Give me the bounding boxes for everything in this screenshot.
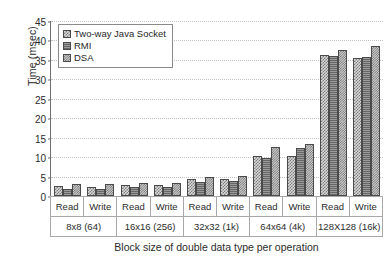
bar — [296, 148, 305, 196]
legend-label-1: RMI — [74, 40, 91, 52]
bar — [353, 58, 362, 196]
bar — [229, 181, 238, 196]
y-tick-label-25: 25 — [35, 94, 46, 105]
operation-label: Read — [51, 197, 84, 217]
bar — [362, 57, 371, 196]
operation-label: Read — [117, 197, 150, 217]
bar — [305, 144, 314, 196]
bar — [238, 176, 247, 196]
operation-label: Read — [250, 197, 283, 217]
bar — [187, 179, 196, 196]
group-label-row: 8x8 (64)16x16 (256)32x32 (1k)64x64 (4k)1… — [51, 217, 383, 237]
x-axis-title: Block size of double data type per opera… — [50, 241, 383, 253]
bar — [87, 187, 96, 196]
operation-label: Write — [216, 197, 249, 217]
group-label: 8x8 (64) — [51, 217, 117, 237]
bar — [130, 187, 139, 196]
operation-label: Read — [183, 197, 216, 217]
bar — [338, 50, 347, 196]
y-tick-label-15: 15 — [35, 133, 46, 144]
operation-label-row: ReadWriteReadWriteReadWriteReadWriteRead… — [51, 197, 383, 217]
legend: Two-way Java Socket RMI DSA — [58, 24, 173, 68]
y-tick-label-5: 5 — [40, 172, 46, 183]
operation-label: Write — [84, 197, 117, 217]
bar-group — [184, 21, 217, 196]
bar — [287, 156, 296, 196]
y-tick-label-10: 10 — [35, 153, 46, 164]
y-tick-label-0: 0 — [40, 192, 46, 203]
legend-swatch-icon-1 — [63, 42, 71, 50]
bar — [121, 185, 130, 196]
legend-item-2: DSA — [63, 52, 166, 64]
legend-label-0: Two-way Java Socket — [74, 28, 166, 40]
bar-chart: Time (msec) 454035302520151050 Two-way J… — [0, 0, 391, 263]
legend-label-2: DSA — [74, 52, 94, 64]
legend-item-1: RMI — [63, 40, 166, 52]
operation-label: Write — [283, 197, 316, 217]
bar — [72, 184, 81, 196]
bar — [139, 183, 148, 196]
y-tick-label-45: 45 — [35, 17, 46, 28]
operation-label: Write — [349, 197, 382, 217]
bar — [271, 147, 280, 196]
bar — [54, 186, 63, 196]
bar — [220, 179, 229, 196]
bar — [172, 183, 181, 196]
bar-group — [283, 21, 316, 196]
bar — [371, 46, 380, 197]
legend-item-0: Two-way Java Socket — [63, 28, 166, 40]
category-axis: ReadWriteReadWriteReadWriteReadWriteRead… — [50, 196, 383, 237]
bar-group — [350, 21, 383, 196]
legend-swatch-icon-0 — [63, 30, 71, 38]
group-label: 16x16 (256) — [117, 217, 183, 237]
group-label: 128X128 (16k) — [316, 217, 383, 237]
bar-group — [217, 21, 250, 196]
bar — [253, 156, 262, 196]
bar — [105, 184, 114, 196]
group-label: 32x32 (1k) — [183, 217, 249, 237]
bar — [96, 189, 105, 196]
operation-label: Read — [316, 197, 349, 217]
bar — [262, 158, 271, 197]
bar — [163, 187, 172, 196]
bar — [63, 189, 72, 196]
bar — [205, 177, 214, 196]
bar — [196, 182, 205, 196]
y-tick-label-20: 20 — [35, 114, 46, 125]
y-tick-label-30: 30 — [35, 75, 46, 86]
legend-swatch-icon-2 — [63, 54, 71, 62]
y-tick-label-40: 40 — [35, 36, 46, 47]
group-label: 64x64 (4k) — [250, 217, 316, 237]
bar — [320, 55, 329, 196]
y-tick-label-35: 35 — [35, 55, 46, 66]
bar-group — [317, 21, 350, 196]
operation-label: Write — [150, 197, 183, 217]
bar-group — [250, 21, 283, 196]
bar — [329, 56, 338, 196]
bar — [154, 185, 163, 196]
